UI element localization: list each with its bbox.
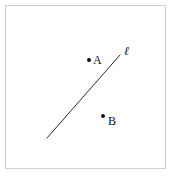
point-b-dot — [101, 114, 105, 118]
point-a-label: A — [93, 54, 102, 66]
geometry-figure: A B ℓ — [0, 0, 176, 177]
point-a-dot — [87, 58, 91, 62]
line-l-label: ℓ — [124, 45, 129, 57]
point-b-label: B — [108, 115, 116, 127]
figure-drawing-canvas — [0, 0, 176, 177]
